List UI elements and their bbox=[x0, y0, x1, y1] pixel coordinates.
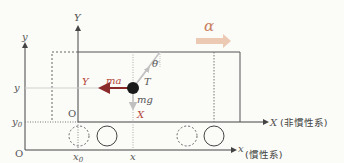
accelerating-car-pendulum-diagram: α Y y y y0 O O x0 x X (非慣性系) x (慣性系) Y X… bbox=[0, 0, 344, 163]
label-X-red: X bbox=[136, 109, 145, 120]
wheel-initial-right bbox=[177, 126, 197, 146]
label-origin-noninertial: O bbox=[68, 108, 76, 119]
car-body bbox=[78, 52, 240, 122]
label-X-axis-note: (非慣性系) bbox=[280, 117, 327, 128]
label-origin-inertial: O bbox=[15, 148, 23, 159]
label-Y-axis: Y bbox=[74, 12, 82, 23]
label-y-axis: y bbox=[21, 31, 28, 42]
wheel-left bbox=[97, 126, 117, 146]
wheel-initial-left bbox=[69, 126, 89, 146]
label-x0: x0 bbox=[73, 151, 84, 163]
label-alpha: α bbox=[204, 17, 214, 35]
wheel-right bbox=[204, 126, 224, 146]
label-theta: θ bbox=[152, 58, 158, 69]
label-x-position: x bbox=[130, 151, 136, 162]
label-x-axis: x bbox=[238, 143, 244, 154]
label-mg: mg bbox=[137, 94, 153, 105]
label-y0: y0 bbox=[11, 116, 23, 129]
label-ma: ma bbox=[106, 75, 121, 86]
label-X-axis: X bbox=[269, 117, 278, 128]
label-tension: T bbox=[144, 76, 152, 87]
label-Y-red: Y bbox=[82, 76, 90, 87]
label-y-position: y bbox=[13, 82, 20, 93]
acceleration-arrow bbox=[196, 34, 231, 48]
pendulum-bob bbox=[127, 82, 139, 94]
label-x-axis-note: (慣性系) bbox=[245, 149, 282, 160]
